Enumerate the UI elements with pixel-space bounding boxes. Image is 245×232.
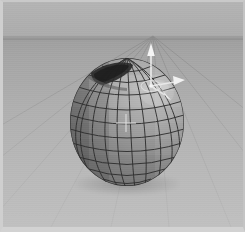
pivot-crosshair[interactable]: 3D Cursor xyxy=(114,112,138,134)
gizmo-axis-z xyxy=(151,86,171,100)
gizmo-axis-y xyxy=(147,43,155,86)
pivot-crosshair-render xyxy=(114,112,138,134)
scene-render[interactable]: Sphere xyxy=(3,2,243,227)
3d-viewport[interactable]: Sphere xyxy=(0,0,245,232)
transform-gizmo[interactable]: Move Gizmo xyxy=(121,40,201,102)
transform-gizmo-render xyxy=(121,40,201,102)
gizmo-origin-dot xyxy=(149,84,153,88)
viewport-label: 3D Viewport xyxy=(0,0,1,1)
